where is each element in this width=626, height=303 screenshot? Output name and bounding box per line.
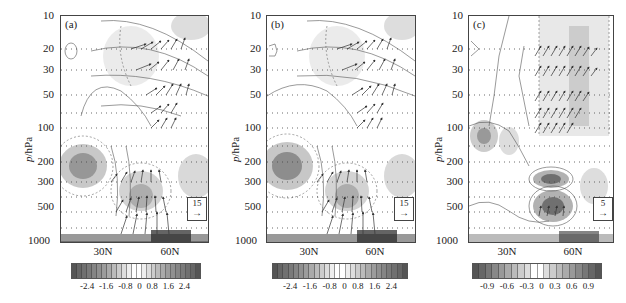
y-tick: 1000 bbox=[428, 235, 458, 246]
y-tick: 200 bbox=[24, 156, 54, 167]
y-tick: 50 bbox=[231, 89, 261, 100]
reference-vector-box: 5 → bbox=[593, 197, 613, 221]
y-tick: 10 bbox=[24, 10, 54, 21]
y-tick: 500 bbox=[24, 201, 54, 212]
y-tick: 30 bbox=[433, 64, 463, 75]
colorbar bbox=[71, 263, 201, 279]
y-tick: 10 bbox=[231, 10, 261, 21]
field-graphic bbox=[469, 16, 613, 242]
x-tick: 30N bbox=[487, 245, 527, 257]
plot-area: (a) 15 → bbox=[60, 15, 209, 243]
y-tick: 300 bbox=[433, 176, 463, 187]
arrow-right-icon: → bbox=[188, 208, 206, 218]
panel-label: (b) bbox=[271, 18, 284, 30]
y-tick: 30 bbox=[231, 64, 261, 75]
field-graphic bbox=[267, 16, 415, 242]
plot-area: (c) 5 → bbox=[468, 15, 614, 243]
reference-vector-box: 15 → bbox=[187, 197, 207, 221]
y-tick: 30 bbox=[24, 64, 54, 75]
field-graphic bbox=[61, 16, 208, 242]
y-tick: 500 bbox=[433, 201, 463, 212]
panel-b: p/hPa 10 20 30 50 100 200 300 500 1000 bbox=[205, 0, 415, 303]
panel-label: (a) bbox=[65, 18, 77, 30]
panel-a: p/hPa 10 20 30 50 100 200 300 500 1000 bbox=[0, 0, 210, 303]
y-tick: 20 bbox=[231, 43, 261, 54]
panel-c: p/hPa 10 20 30 50 100 200 300 500 1000 bbox=[410, 0, 626, 303]
y-tick: 300 bbox=[24, 176, 54, 187]
colorbar-ticks: -0.9 -0.6 -0.3 0 0.3 0.6 0.9 bbox=[480, 281, 594, 291]
colorbar-ticks: -2.4 -1.6 -0.8 0 0.8 1.6 2.4 bbox=[283, 281, 397, 291]
y-tick: 300 bbox=[231, 176, 261, 187]
y-tick: 200 bbox=[231, 156, 261, 167]
y-tick: 100 bbox=[231, 122, 261, 133]
colorbar bbox=[272, 263, 408, 279]
y-tick: 1000 bbox=[227, 235, 257, 246]
x-tick: 30N bbox=[83, 245, 123, 257]
y-tick: 1000 bbox=[20, 235, 50, 246]
y-tick: 100 bbox=[24, 122, 54, 133]
y-tick: 200 bbox=[433, 156, 463, 167]
panel-label: (c) bbox=[473, 18, 485, 30]
x-tick: 30N bbox=[289, 245, 329, 257]
x-tick: 60N bbox=[355, 245, 395, 257]
arrow-right-icon: → bbox=[594, 208, 612, 218]
colorbar-ticks: -2.4 -1.6 -0.8 0 0.8 1.6 2.4 bbox=[80, 281, 190, 291]
plot-area: (b) 15 → bbox=[266, 15, 416, 243]
y-tick: 20 bbox=[24, 43, 54, 54]
y-tick: 20 bbox=[433, 43, 463, 54]
y-tick: 50 bbox=[433, 89, 463, 100]
colorbar bbox=[472, 263, 602, 279]
y-tick: 500 bbox=[231, 201, 261, 212]
y-tick: 100 bbox=[433, 122, 463, 133]
y-tick: 10 bbox=[433, 10, 463, 21]
x-tick: 60N bbox=[150, 245, 190, 257]
x-tick: 60N bbox=[553, 245, 593, 257]
y-tick: 50 bbox=[24, 89, 54, 100]
